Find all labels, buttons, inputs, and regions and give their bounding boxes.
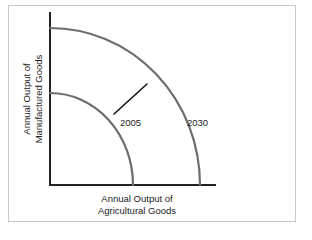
x-axis-label-line2: Agricultural Goods [98,205,176,216]
ppf-chart: 2005 2030 Annual Output of Manufactured … [0,0,312,240]
x-axis-label-line1: Annual Output of [101,193,173,204]
y-axis-label: Annual Output of Manufactured Goods [21,54,44,143]
frontier-shift-line [114,84,147,114]
ppf-curve-2030 [50,28,200,185]
y-axis-label-line1: Annual Output of [21,63,32,135]
ppf-curve-2005 [50,93,133,185]
y-axis-label-line2: Manufactured Goods [33,54,44,143]
curve-label-2005: 2005 [120,117,141,128]
curve-label-2030: 2030 [187,117,208,128]
ppf-figure: 2005 2030 Annual Output of Manufactured … [0,0,312,240]
x-axis-label: Annual Output of Agricultural Goods [98,193,176,216]
